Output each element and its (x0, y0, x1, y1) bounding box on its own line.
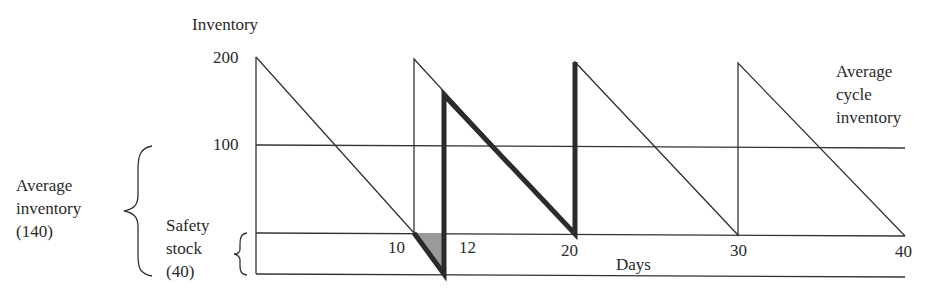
x-tick-30: 30 (730, 240, 747, 261)
safety-stock-label-line1: Safety (166, 215, 209, 236)
avg-inventory-label-line1: Average (16, 175, 72, 196)
average-inventory-brace (124, 146, 152, 276)
y-tick-100: 100 (213, 134, 239, 155)
safety-stock-label-line2: stock (166, 238, 202, 259)
x-tick-40: 40 (895, 241, 912, 262)
avg-inventory-label-line3: (140) (16, 221, 53, 242)
y-axis-title: Inventory (192, 14, 258, 35)
avg-cycle-label-line3: inventory (836, 107, 901, 128)
y-tick-200: 200 (213, 47, 239, 68)
avg-inventory-label-line2: inventory (16, 198, 81, 219)
safety-stock-line (256, 233, 905, 236)
avg-cycle-label-line2: cycle (836, 84, 872, 105)
x-tick-12: 12 (459, 237, 476, 258)
avg-cycle-label-line1: Average (836, 61, 892, 82)
x-tick-10: 10 (388, 237, 405, 258)
x-tick-20: 20 (561, 240, 578, 261)
x-axis-title: Days (616, 254, 651, 275)
avg-cycle-line (256, 145, 905, 148)
zero-line (256, 274, 905, 277)
safety-stock-brace (234, 233, 247, 275)
safety-stock-label-line3: (40) (166, 261, 194, 282)
inventory-sawtooth-chart: Inventory 200 100 10 12 20 30 40 Days Av… (0, 0, 938, 298)
